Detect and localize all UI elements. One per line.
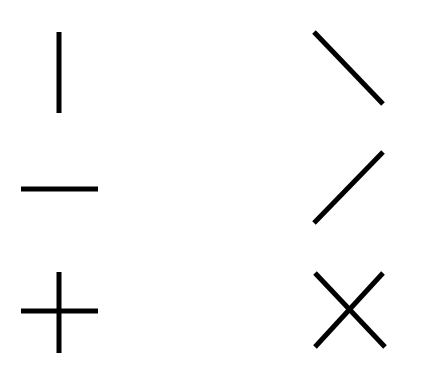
- line-orientation-diagram: [0, 0, 421, 377]
- slash-diagonal-shape: [314, 152, 383, 223]
- x-cross-shape: [315, 273, 385, 347]
- slash-diagonal-stroke-1: [314, 152, 383, 223]
- backslash-diagonal-shape: [314, 32, 383, 104]
- backslash-diagonal-stroke-1: [314, 32, 383, 104]
- plus-sign-shape: [21, 272, 98, 353]
